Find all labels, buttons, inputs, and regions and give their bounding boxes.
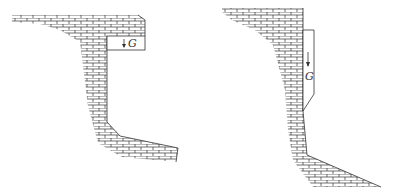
left-wall-figure: G [12,15,178,162]
diagram-canvas: G G [0,0,396,195]
right-wall-body [222,8,381,187]
left-load-box [107,36,145,50]
left-wall-body [12,15,178,162]
right-load-label: G [305,70,314,83]
right-wall-figure: G [222,8,381,187]
left-load-label: G [128,37,137,50]
